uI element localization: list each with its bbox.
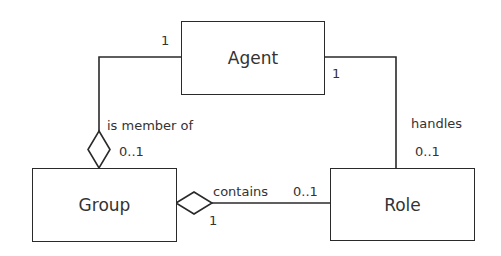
handles-association-label: handles [411, 117, 462, 130]
class-agent[interactable]: Agent [181, 21, 325, 95]
class-role[interactable]: Role [330, 168, 475, 241]
class-role-name: Role [384, 195, 421, 215]
class-agent-name: Agent [228, 48, 278, 68]
member-association-label: is member of [107, 119, 193, 132]
member-agent-multiplicity: 1 [161, 34, 169, 47]
handles-agent-multiplicity: 1 [332, 67, 340, 80]
aggregation-diamond-icon [88, 131, 110, 168]
contains-association-label: contains [213, 185, 268, 198]
contains-group-multiplicity: 1 [209, 214, 217, 227]
aggregation-diamond-icon [176, 192, 212, 214]
class-group[interactable]: Group [32, 168, 177, 242]
class-group-name: Group [79, 195, 131, 215]
handles-role-multiplicity: 0..1 [415, 145, 440, 158]
member-group-multiplicity: 0..1 [119, 145, 144, 158]
contains-role-multiplicity: 0..1 [293, 185, 318, 198]
